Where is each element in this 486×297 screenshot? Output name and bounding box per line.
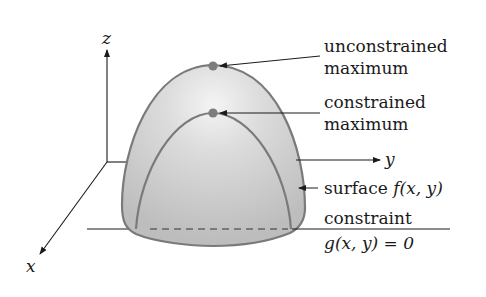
z-axis-label: z — [101, 28, 112, 48]
constrained-maximum-point — [208, 108, 217, 117]
unconstrained-label-line1: unconstrained — [324, 36, 448, 56]
y-axis-label: y — [384, 149, 395, 169]
surface-label-prefix: surface — [324, 178, 393, 198]
surface-dome — [122, 65, 305, 246]
constrained-label-line1: constrained — [324, 92, 426, 112]
constrained-label-line2: maximum — [324, 114, 408, 134]
unconstrained-maximum-point — [208, 61, 217, 70]
unconstrained-label-line2: maximum — [324, 58, 408, 78]
constraint-label-line1: constraint — [324, 208, 412, 228]
lagrange-multiplier-diagram: z x y unconstrained maximum constrained … — [0, 0, 486, 297]
surface-label-function: f(x, y) — [391, 178, 443, 198]
x-axis-label: x — [26, 256, 36, 276]
surface-label: surface f(x, y) — [324, 178, 443, 198]
x-axis — [40, 162, 107, 254]
constraint-label-line2: g(x, y) = 0 — [324, 233, 414, 253]
unconstrained-leader — [220, 56, 320, 66]
